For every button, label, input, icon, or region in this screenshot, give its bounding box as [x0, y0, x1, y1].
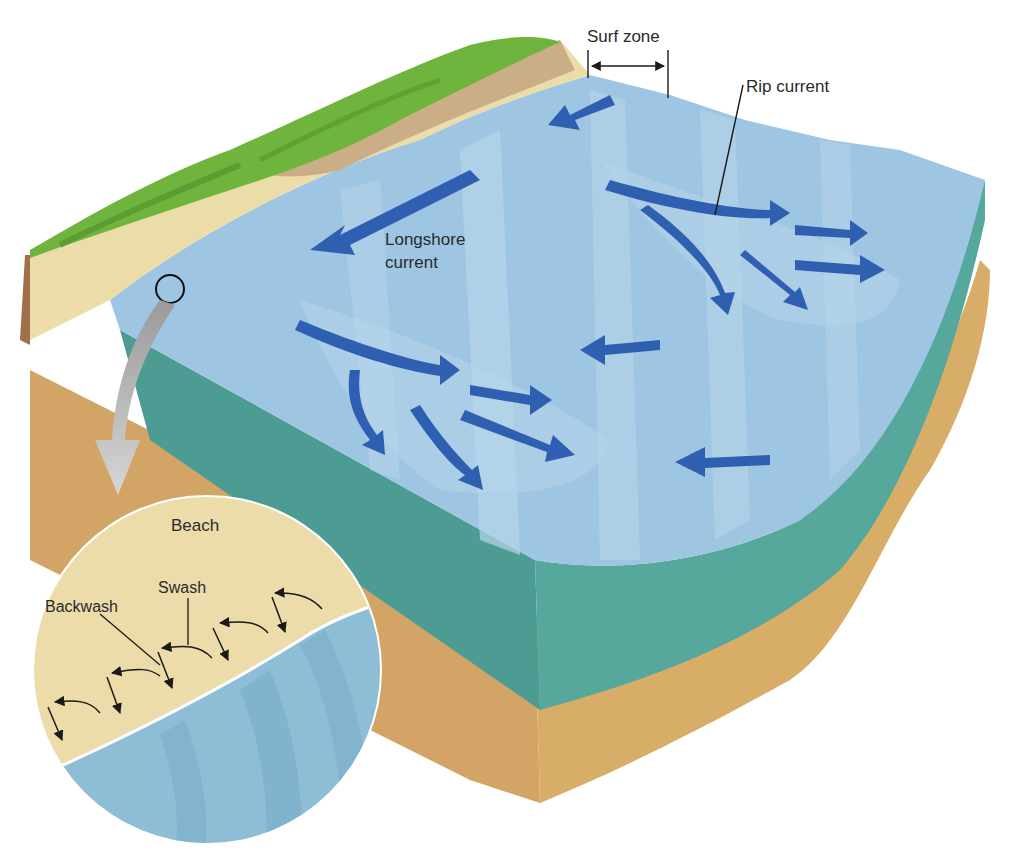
label-rip-current: Rip current — [746, 77, 829, 96]
label-backwash: Backwash — [45, 597, 118, 616]
coastal-block-diagram — [0, 0, 1020, 853]
label-swash: Swash — [158, 578, 206, 597]
label-surf-zone: Surf zone — [587, 27, 660, 46]
label-longshore-line1: Longshore — [385, 228, 465, 251]
label-longshore-current: Longshore current — [385, 228, 465, 274]
label-longshore-line2: current — [385, 251, 465, 274]
label-beach: Beach — [171, 516, 219, 535]
